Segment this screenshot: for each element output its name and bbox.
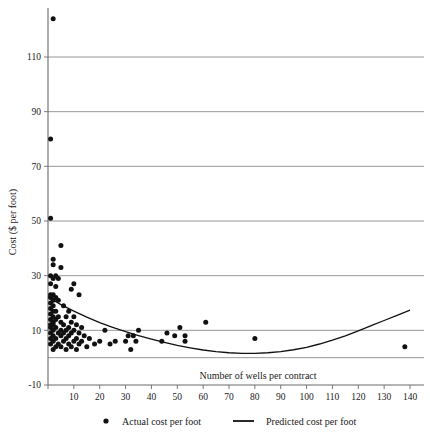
y-tick-label-50: 50 bbox=[32, 216, 42, 226]
data-point bbox=[74, 347, 79, 352]
legend-label-predicted: Predicted cost per foot bbox=[266, 416, 356, 427]
x-tick-label-80: 80 bbox=[250, 392, 260, 402]
data-point bbox=[123, 339, 128, 344]
data-point bbox=[133, 339, 138, 344]
y-tick-label-30: 30 bbox=[32, 271, 42, 281]
data-point bbox=[61, 322, 66, 327]
data-point bbox=[164, 331, 169, 336]
data-point bbox=[74, 322, 79, 327]
x-axis-title: Number of wells per contract bbox=[199, 370, 316, 381]
data-point bbox=[84, 344, 89, 349]
legend-label-actual: Actual cost per foot bbox=[122, 416, 201, 427]
data-point bbox=[69, 344, 74, 349]
data-point bbox=[126, 333, 131, 338]
data-point bbox=[131, 333, 136, 338]
data-point bbox=[51, 276, 56, 281]
data-point bbox=[97, 339, 102, 344]
y-axis-title: Cost ($ per foot) bbox=[7, 189, 19, 255]
data-point bbox=[87, 336, 92, 341]
data-point bbox=[71, 281, 76, 286]
data-point bbox=[58, 344, 63, 349]
data-point bbox=[79, 325, 84, 330]
scatter-chart: -101030507090110102030405060708090100110… bbox=[0, 0, 430, 438]
data-point bbox=[82, 333, 87, 338]
y-tick-label-90: 90 bbox=[32, 107, 42, 117]
predicted-cost-curve bbox=[48, 297, 410, 353]
data-point bbox=[128, 347, 133, 352]
data-point bbox=[177, 325, 182, 330]
data-point bbox=[53, 284, 58, 289]
y-tick-label-110: 110 bbox=[27, 52, 41, 62]
data-point bbox=[56, 298, 61, 303]
data-point bbox=[58, 243, 63, 248]
data-point bbox=[108, 342, 113, 347]
data-point bbox=[48, 342, 53, 347]
data-point bbox=[252, 336, 257, 341]
data-point bbox=[203, 320, 208, 325]
data-point bbox=[51, 347, 56, 352]
data-point bbox=[71, 339, 76, 344]
data-point bbox=[159, 339, 164, 344]
data-point bbox=[71, 314, 76, 319]
data-point bbox=[64, 314, 69, 319]
x-tick-label-20: 20 bbox=[95, 392, 105, 402]
data-point bbox=[51, 257, 56, 262]
data-point bbox=[48, 137, 53, 142]
data-point bbox=[183, 339, 188, 344]
y-tick-label-70: 70 bbox=[32, 162, 42, 172]
x-tick-label-40: 40 bbox=[147, 392, 157, 402]
data-point bbox=[77, 342, 82, 347]
y-tick-label-10: 10 bbox=[32, 326, 42, 336]
data-point bbox=[56, 276, 61, 281]
data-point bbox=[77, 331, 82, 336]
y-tick-label--10: -10 bbox=[28, 380, 41, 390]
data-point bbox=[102, 328, 107, 333]
data-point bbox=[66, 309, 71, 314]
legend-marker-actual bbox=[103, 418, 108, 423]
data-point bbox=[183, 333, 188, 338]
x-tick-label-30: 30 bbox=[121, 392, 131, 402]
x-tick-label-90: 90 bbox=[276, 392, 286, 402]
data-point bbox=[69, 287, 74, 292]
data-point bbox=[136, 328, 141, 333]
data-point bbox=[64, 347, 69, 352]
data-point bbox=[58, 333, 63, 338]
data-point bbox=[92, 342, 97, 347]
plot-area: -101030507090110102030405060708090100110… bbox=[0, 0, 430, 438]
data-point bbox=[51, 262, 56, 267]
data-point bbox=[48, 281, 53, 286]
data-point bbox=[113, 339, 118, 344]
data-point bbox=[69, 320, 74, 325]
x-tick-label-50: 50 bbox=[173, 392, 183, 402]
data-point bbox=[61, 303, 66, 308]
x-tick-label-10: 10 bbox=[69, 392, 79, 402]
x-tick-label-140: 140 bbox=[403, 392, 418, 402]
scatter-points-group bbox=[48, 16, 407, 352]
x-tick-label-100: 100 bbox=[299, 392, 314, 402]
x-tick-label-70: 70 bbox=[224, 392, 234, 402]
x-tick-label-130: 130 bbox=[377, 392, 392, 402]
data-point bbox=[61, 339, 66, 344]
data-point bbox=[48, 216, 53, 221]
data-point bbox=[172, 333, 177, 338]
data-point bbox=[51, 16, 56, 21]
x-tick-label-120: 120 bbox=[351, 392, 366, 402]
data-point bbox=[58, 265, 63, 270]
x-tick-label-60: 60 bbox=[198, 392, 208, 402]
data-point bbox=[402, 344, 407, 349]
data-point bbox=[77, 292, 82, 297]
x-tick-label-110: 110 bbox=[325, 392, 339, 402]
